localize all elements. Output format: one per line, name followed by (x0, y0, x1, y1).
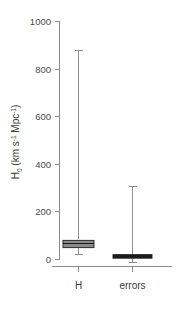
x-tick-marks (79, 267, 133, 273)
x-tick-label-H: H (75, 280, 82, 291)
y-axis-title-unit-open: (km s (10, 141, 21, 168)
y-axis-title-symbol: H (10, 172, 21, 179)
y-tick-marks (55, 22, 60, 260)
chart-canvas: 1000 800 600 400 200 0 H0 (km s-1 Mpc-1)… (0, 0, 182, 310)
y-tick-label-400: 400 (35, 159, 51, 170)
box-plot-figure: 1000 800 600 400 200 0 H0 (km s-1 Mpc-1)… (0, 0, 182, 310)
x-tick-label-errors: errors (119, 280, 145, 291)
y-axis-title: H0 (km s-1 Mpc-1) (10, 105, 23, 180)
y-tick-label-1000: 1000 (30, 16, 51, 27)
y-tick-labels: 1000 800 600 400 200 0 (30, 16, 51, 265)
y-tick-label-600: 600 (35, 111, 51, 122)
y-axis-title-unit-close: ) (10, 105, 21, 108)
box-plot-group-H[interactable] (63, 50, 94, 254)
y-tick-label-800: 800 (35, 64, 51, 75)
y-axis-title-unit-mid: Mpc (10, 114, 21, 136)
y-tick-label-200: 200 (35, 206, 51, 217)
svg-text:H0 (km s-1 Mpc-1): H0 (km s-1 Mpc-1) (10, 105, 23, 180)
box-plot-group-errors[interactable] (113, 187, 152, 263)
x-tick-labels: H errors (75, 280, 146, 291)
y-tick-label-0: 0 (46, 254, 51, 265)
